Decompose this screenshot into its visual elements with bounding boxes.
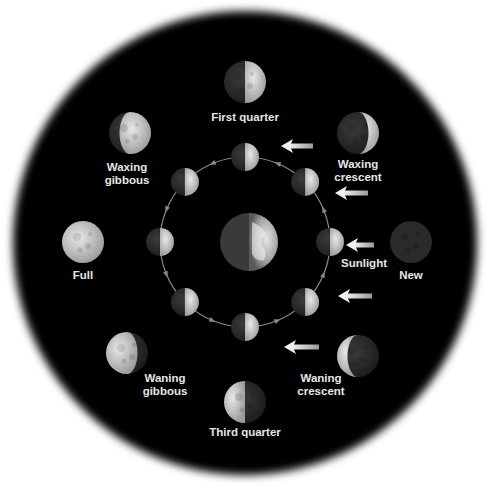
moon-first-quarter xyxy=(224,61,266,103)
earth xyxy=(220,213,278,271)
moon-phases-diagram: NewWaxingcrescentFirst quarterWaxinggibb… xyxy=(0,0,490,485)
moon-waxing-gibbous xyxy=(109,112,151,154)
orbit-moon xyxy=(171,288,199,316)
orbit-moon xyxy=(171,168,199,196)
orbit-moon xyxy=(231,313,259,341)
moon-third-quarter xyxy=(224,381,266,423)
sunlight-label: Sunlight xyxy=(341,257,387,269)
orbit-moon xyxy=(291,168,319,196)
label-waning-gibbous: Waninggibbous xyxy=(143,372,188,397)
label-full: Full xyxy=(73,269,93,281)
moon-waning-crescent xyxy=(337,335,379,377)
label-first-quarter: First quarter xyxy=(211,111,279,123)
moon-waning-gibbous xyxy=(106,332,148,374)
orbit-moon xyxy=(316,228,344,256)
orbit-moon xyxy=(146,228,174,256)
label-new: New xyxy=(399,269,423,281)
moon-full xyxy=(62,221,104,263)
moon-waxing-crescent xyxy=(337,112,379,154)
label-waning-crescent: Waningcrescent xyxy=(297,372,344,397)
label-waxing-crescent: Waxingcrescent xyxy=(334,158,381,183)
label-waxing-gibbous: Waxinggibbous xyxy=(105,161,150,186)
orbit-moon xyxy=(231,143,259,171)
moon-new xyxy=(390,221,432,263)
orbit-moon xyxy=(291,288,319,316)
label-third-quarter: Third quarter xyxy=(209,426,281,438)
